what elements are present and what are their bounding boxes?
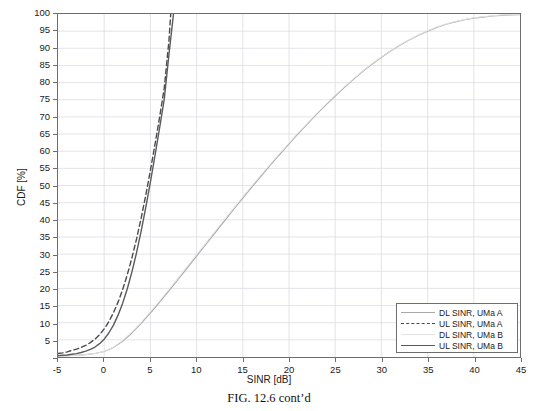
legend-swatch-ul-uma-b (401, 341, 435, 351)
y-tick-mark (53, 168, 57, 169)
y-axis-label: CDF [%] (16, 168, 27, 206)
figure-caption: FIG. 12.6 cont’d (0, 391, 538, 406)
x-tick-mark (150, 358, 151, 362)
figure-container: 5101520253035404550556065707580859095100… (0, 0, 538, 411)
y-tick-mark (53, 117, 57, 118)
x-tick-mark (103, 358, 104, 362)
y-tick-label: 5 (19, 336, 50, 346)
y-tick-label: 60 (19, 146, 50, 156)
legend-swatch-dl-uma-a (401, 308, 435, 318)
y-tick-label: 35 (19, 232, 50, 242)
series-line (58, 14, 171, 354)
y-tick-mark (53, 272, 57, 273)
x-tick-mark (521, 358, 522, 362)
x-tick-mark (57, 358, 58, 362)
y-tick-mark (53, 203, 57, 204)
y-tick-mark (53, 82, 57, 83)
y-tick-label: 90 (19, 43, 50, 53)
y-tick-mark (53, 220, 57, 221)
y-tick-label: 65 (19, 129, 50, 139)
y-tick-mark (53, 65, 57, 66)
y-tick-mark (53, 99, 57, 100)
y-tick-label: 70 (19, 112, 50, 122)
y-tick-mark (53, 306, 57, 307)
x-tick-mark (475, 358, 476, 362)
x-tick-mark (196, 358, 197, 362)
x-tick-mark (382, 358, 383, 362)
legend-item: DL SINR, UMa B (401, 329, 513, 340)
y-tick-label: 20 (19, 284, 50, 294)
y-tick-label: 30 (19, 250, 50, 260)
y-tick-label: 95 (19, 25, 50, 35)
y-tick-label: 75 (19, 94, 50, 104)
y-tick-mark (53, 324, 57, 325)
y-tick-label: 85 (19, 60, 50, 70)
y-tick-mark (53, 341, 57, 342)
y-tick-label: 25 (19, 267, 50, 277)
legend-label: UL SINR, UMa B (439, 341, 503, 351)
y-tick-label: 80 (19, 77, 50, 87)
x-tick-mark (289, 358, 290, 362)
y-tick-label: 15 (19, 301, 50, 311)
y-tick-mark (53, 151, 57, 152)
x-tick-mark (243, 358, 244, 362)
legend-label: DL SINR, UMa A (439, 308, 502, 318)
y-tick-mark (53, 237, 57, 238)
y-tick-label: 100 (19, 8, 50, 18)
chart-legend: DL SINR, UMa A UL SINR, UMa A DL SINR, U… (396, 303, 518, 353)
y-tick-mark (53, 134, 57, 135)
x-tick-mark (335, 358, 336, 362)
y-tick-label: 40 (19, 215, 50, 225)
legend-item: DL SINR, UMa A (401, 307, 513, 318)
x-tick-mark (428, 358, 429, 362)
legend-label: DL SINR, UMa B (439, 330, 503, 340)
y-tick-mark (53, 255, 57, 256)
legend-swatch-ul-uma-a (401, 319, 435, 329)
y-tick-mark (53, 186, 57, 187)
y-tick-label: 10 (19, 319, 50, 329)
x-axis-label: SINR [dB] (0, 374, 538, 385)
y-tick-mark (53, 13, 57, 14)
legend-swatch-dl-uma-b (401, 330, 435, 340)
y-tick-mark (53, 30, 57, 31)
legend-item: UL SINR, UMa A (401, 318, 513, 329)
y-tick-mark (53, 289, 57, 290)
legend-item: UL SINR, UMa B (401, 340, 513, 351)
legend-label: UL SINR, UMa A (439, 319, 502, 329)
y-tick-mark (53, 48, 57, 49)
